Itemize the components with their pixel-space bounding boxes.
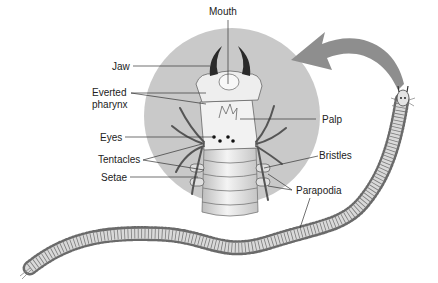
label-tentacles: Tentacles: [98, 154, 140, 165]
diagram-canvas: Mouth Jaw Everted pharynx Eyes Tentacles…: [0, 0, 438, 283]
label-eyes: Eyes: [100, 132, 122, 143]
label-jaw: Jaw: [112, 61, 130, 72]
label-everted-pharynx-line2: pharynx: [92, 99, 128, 110]
worm-illustration: [0, 0, 438, 283]
label-setae: Setae: [101, 172, 127, 183]
label-bristles: Bristles: [319, 150, 352, 161]
label-palp: Palp: [322, 114, 342, 125]
label-mouth: Mouth: [209, 6, 237, 17]
label-everted-pharynx-line1: Everted: [92, 87, 126, 98]
label-parapodia: Parapodia: [296, 185, 342, 196]
